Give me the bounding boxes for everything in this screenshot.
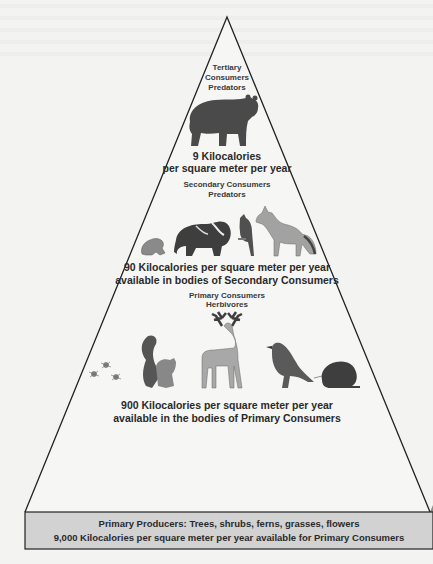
secondary-energy-line-2: available in bodies of Secondary Consume… — [115, 274, 339, 286]
primary-title-line-2: Herbivores — [206, 300, 248, 309]
secondary-title-line-1: Secondary Consumers — [183, 180, 271, 189]
tertiary-title-line-2: Consumers — [205, 73, 250, 82]
tertiary-title-line-1: Tertiary — [213, 63, 242, 72]
primary-title-line-1: Primary Consumers — [189, 291, 266, 300]
primary-energy-line-1: 900 Kilocalories per square meter per ye… — [121, 399, 333, 411]
secondary-energy-line-1: 90 Kilocalories per square meter per yea… — [124, 261, 330, 273]
energy-pyramid: Tertiary Consumers Predators 9 Kilocalor… — [0, 0, 433, 564]
secondary-title-line-2: Predators — [208, 190, 246, 199]
tertiary-energy-line-2: per square meter per year — [163, 162, 292, 174]
tertiary-energy-line-1: 9 Kilocalories — [193, 150, 261, 162]
producers-energy-line-1: Primary Producers: Trees, shrubs, ferns,… — [99, 518, 360, 529]
tertiary-title-line-3: Predators — [208, 83, 246, 92]
primary-energy-line-2: available in the bodies of Primary Consu… — [113, 412, 341, 424]
producers-energy-line-2: 9,000 Kilocalories per square meter per … — [54, 532, 405, 543]
